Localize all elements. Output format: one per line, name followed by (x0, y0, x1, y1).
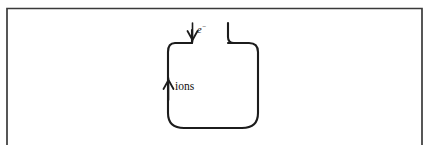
electron-label: e− (197, 23, 207, 35)
ion-outlet-arrow (164, 78, 174, 100)
figure-container: e− ions (0, 0, 430, 145)
neck-right-wall (228, 23, 234, 43)
ion-source-diagram: e− ions (0, 0, 430, 145)
electron-label-superscript: − (202, 23, 207, 31)
figure-border-path (7, 9, 422, 146)
figure-border (7, 9, 422, 146)
electron-inlet-arrow (188, 23, 198, 42)
ions-label: ions (175, 80, 195, 92)
